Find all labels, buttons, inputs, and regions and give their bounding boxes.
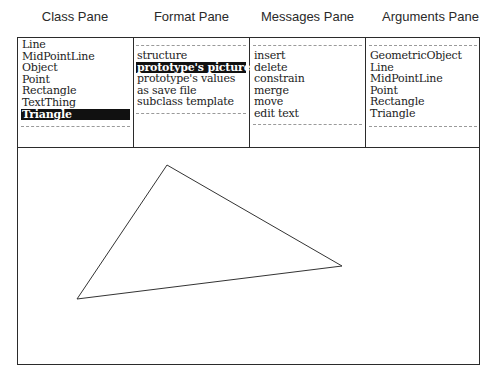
message-item-insert[interactable]: insert — [253, 50, 362, 62]
class-list[interactable]: Line MidPointLine Object Point Rectangle… — [21, 39, 130, 120]
triangle-drawing[interactable] — [18, 148, 479, 364]
list-start-marker — [136, 45, 246, 46]
list-end-marker — [369, 126, 477, 127]
class-pane-caption: Class Pane — [17, 9, 133, 24]
class-item-triangle[interactable]: Triangle — [21, 109, 130, 121]
format-item-structure[interactable]: structure — [136, 50, 246, 62]
class-pane[interactable]: Line MidPointLine Object Point Rectangle… — [18, 38, 134, 148]
format-list[interactable]: structure prototype's picture prototype'… — [136, 50, 246, 108]
class-item-textthing[interactable]: TextThing — [21, 97, 130, 109]
message-item-edit-text[interactable]: edit text — [253, 108, 362, 120]
triangle-shape[interactable] — [77, 165, 342, 299]
browser-window: Line MidPointLine Object Point Rectangle… — [17, 37, 480, 365]
arguments-list[interactable]: GeometricObject Line MidPointLine Point … — [369, 50, 477, 120]
format-pane-caption: Format Pane — [133, 9, 250, 24]
argument-item-triangle[interactable]: Triangle — [369, 108, 477, 120]
messages-pane[interactable]: insert delete constrain merge move edit … — [250, 38, 366, 148]
picture-pane[interactable] — [18, 148, 479, 364]
arguments-pane[interactable]: GeometricObject Line MidPointLine Point … — [366, 38, 480, 148]
argument-item-geometricobject[interactable]: GeometricObject — [369, 50, 477, 62]
format-item-subclass-template[interactable]: subclass template — [136, 96, 246, 108]
class-item-line[interactable]: Line — [21, 39, 130, 51]
list-start-marker — [369, 45, 477, 46]
list-end-marker — [21, 126, 130, 127]
messages-list[interactable]: insert delete constrain merge move edit … — [253, 50, 362, 120]
messages-pane-caption: Messages Pane — [250, 9, 365, 24]
list-end-marker — [253, 124, 362, 125]
format-pane[interactable]: structure prototype's picture prototype'… — [133, 38, 250, 148]
arguments-pane-caption: Arguments Pane — [365, 9, 496, 24]
list-start-marker — [253, 45, 362, 46]
list-end-marker — [136, 113, 246, 114]
